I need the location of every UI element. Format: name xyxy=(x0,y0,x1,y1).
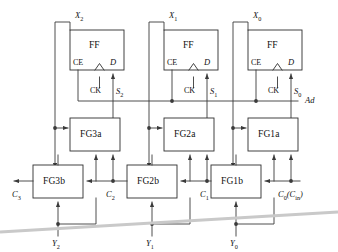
c0-cin-label: C0(Cin) xyxy=(278,189,303,201)
ff1-title: FF xyxy=(183,40,194,50)
ff1-ce-pin: CE xyxy=(167,58,177,67)
s1-label: S1 xyxy=(210,86,217,98)
s2-label: S2 xyxy=(116,86,123,98)
c3-label: C3 xyxy=(12,189,21,201)
x2-label: X2 xyxy=(75,10,83,22)
y0-label: Y0 xyxy=(230,238,238,250)
y2-label: Y2 xyxy=(52,238,60,250)
circuit-wiring xyxy=(0,0,338,252)
fg2a-label: FG2a xyxy=(174,129,196,139)
ff2-ce-pin: CE xyxy=(73,58,83,67)
page-fold-artifact xyxy=(0,212,338,232)
x0-label: X0 xyxy=(253,10,261,22)
ff0-title: FF xyxy=(267,40,278,50)
ff2-title: FF xyxy=(89,40,100,50)
ff2-ck-label: CK xyxy=(90,86,101,95)
fg1b-label: FG1b xyxy=(221,176,243,186)
ff0-ck-label: CK xyxy=(268,86,279,95)
ff0-ce-pin: CE xyxy=(251,58,261,67)
ff0-d-pin: D xyxy=(288,57,294,67)
ff2-d-pin: D xyxy=(110,57,116,67)
s0-label: S0 xyxy=(294,86,301,98)
ff1-ck-label: CK xyxy=(184,86,195,95)
x1-label: X1 xyxy=(169,10,177,22)
ff1-d-pin: D xyxy=(204,57,210,67)
circuit-diagram-canvas: FF FF FF CE CE CE D D D CK CK CK S2 S1 S… xyxy=(0,0,338,252)
c2-label: C2 xyxy=(106,189,115,201)
fg2b-label: FG2b xyxy=(137,176,159,186)
y1-label: Y1 xyxy=(146,238,154,250)
fg3a-label: FG3a xyxy=(80,129,102,139)
ad-control-label: Ad xyxy=(305,95,314,105)
fg1a-label: FG1a xyxy=(258,129,280,139)
fg3b-label: FG3b xyxy=(43,176,65,186)
c1-label: C1 xyxy=(200,189,209,201)
